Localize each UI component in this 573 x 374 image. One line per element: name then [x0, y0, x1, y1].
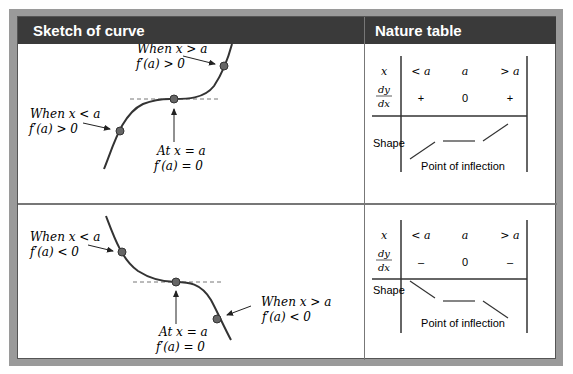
x-value: < a: [411, 65, 430, 78]
point-mid: [172, 278, 180, 286]
label-bottom-right-1: When x > a: [261, 295, 331, 309]
x-value: a: [462, 229, 469, 242]
dydx-value: 0: [462, 92, 468, 104]
point-mid: [170, 95, 178, 103]
label-top-left-1: When x < a: [30, 107, 100, 121]
header-sketch-of-curve: Sketch of curve: [18, 17, 364, 44]
shape-rising: [410, 142, 435, 159]
shape-rising: [483, 124, 508, 141]
dydx-denominator: dx: [378, 98, 390, 109]
label-top-mid-1: At x = a: [156, 144, 206, 158]
dydx-value: 0: [462, 256, 468, 268]
label-bottom-mid-1: At x = a: [158, 325, 208, 339]
label-bottom-mid-2: f′(a) = 0: [155, 340, 205, 354]
label-top-right-2: f′(a) > 0: [135, 57, 185, 71]
label-top-left-2: f′(a) > 0: [28, 122, 78, 136]
point-right: [220, 62, 228, 70]
label-top-right-1: When x > a: [137, 44, 207, 56]
dydx-numerator: dy: [378, 248, 390, 259]
shape-falling: [483, 301, 508, 318]
x-value: > a: [500, 229, 519, 242]
dydx-value: –: [418, 256, 425, 268]
shape-caption: Point of inflection: [421, 317, 505, 329]
x-row-label: x: [381, 229, 388, 242]
point-right: [213, 315, 221, 323]
arrow-left: [88, 245, 113, 251]
top-sketch: When x > a f′(a) > 0 When x < a f′(a) > …: [18, 44, 364, 203]
label-bottom-left-1: When x < a: [30, 230, 100, 244]
bottom-nature-table: x < a a > a dy dx – 0 – Shape Point of i…: [365, 205, 556, 360]
arrow-left: [83, 123, 110, 129]
shape-caption: Point of inflection: [421, 160, 505, 172]
top-nature-table: x < a a > a dy dx + 0 + Shape Point of i…: [365, 44, 556, 203]
x-row-label: x: [381, 65, 388, 78]
label-top-mid-2: f′(a) = 0: [153, 159, 203, 173]
shape-falling: [410, 281, 435, 298]
header-nature-table: Nature table: [365, 17, 556, 44]
point-left: [116, 127, 124, 135]
dydx-value: –: [507, 256, 514, 268]
shape-label: Shape: [373, 284, 405, 296]
dydx-value: +: [507, 92, 513, 104]
label-bottom-right-2: f′(a) < 0: [261, 310, 311, 324]
dydx-value: +: [418, 92, 424, 104]
dydx-numerator: dy: [378, 84, 390, 95]
arrow-right: [183, 56, 215, 64]
label-bottom-left-2: f′(a) < 0: [29, 245, 79, 259]
point-left: [118, 248, 126, 256]
diagram-panel: Sketch of curve Nature table When x > a …: [17, 16, 556, 359]
x-value: < a: [411, 229, 430, 242]
x-value: > a: [500, 65, 519, 78]
dydx-denominator: dx: [378, 262, 390, 273]
arrow-right: [227, 306, 251, 315]
curve: [106, 216, 231, 340]
x-value: a: [462, 65, 469, 78]
shape-label: Shape: [373, 137, 405, 149]
bottom-sketch: When x < a f′(a) < 0 When x > a f′(a) < …: [18, 205, 364, 360]
